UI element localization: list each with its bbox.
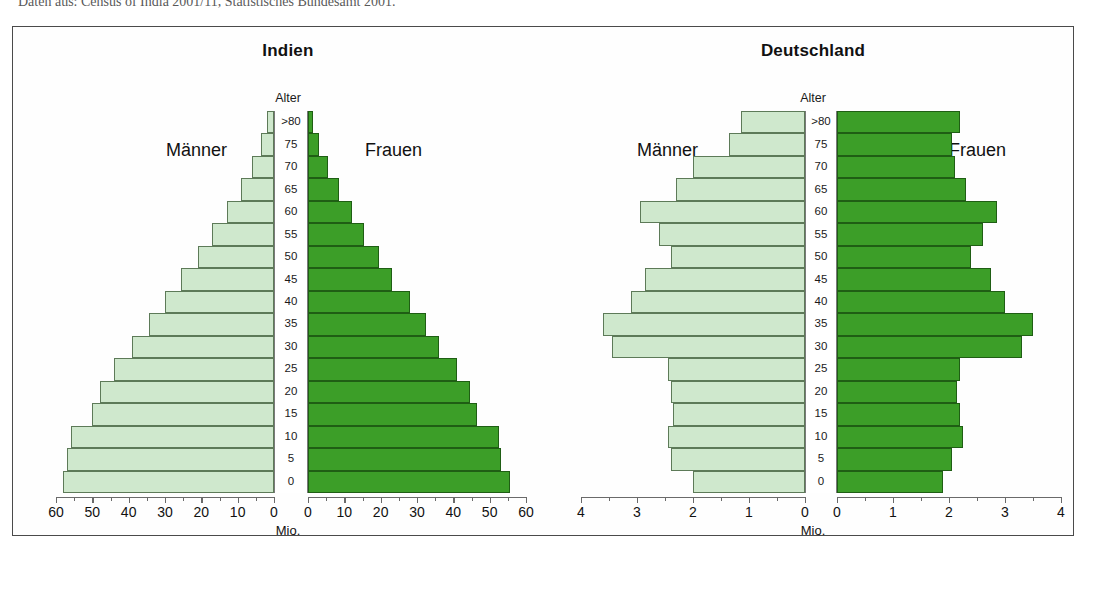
bar-male — [212, 223, 274, 245]
age-tick-label: 10 — [275, 431, 307, 443]
bar-female — [837, 448, 952, 470]
bar-female — [837, 111, 960, 133]
age-tick-label: 20 — [806, 386, 836, 398]
x-axis-tick — [92, 497, 93, 503]
bar-male — [267, 111, 274, 133]
x-axis-tick — [56, 497, 57, 503]
x-axis-tick-label: 2 — [689, 504, 697, 520]
x-axis-tick-label: 0 — [304, 504, 312, 520]
bar-male — [668, 358, 805, 380]
bar-female — [308, 133, 319, 155]
bar-male — [659, 223, 805, 245]
age-tick-label: 75 — [275, 139, 307, 151]
x-axis-tick-label: 40 — [121, 504, 137, 520]
x-axis-minor-tick — [865, 497, 866, 501]
page-title-indien: Indien — [13, 41, 563, 61]
x-axis-minor-tick — [363, 497, 364, 501]
bar-male — [729, 133, 805, 155]
x-axis-tick — [805, 497, 806, 503]
age-tick-label: 0 — [275, 476, 307, 488]
bar-female — [308, 156, 328, 178]
bar-female — [837, 426, 963, 448]
x-axis-tick — [526, 497, 527, 503]
bar-female — [308, 403, 477, 425]
x-axis-tick — [893, 497, 894, 503]
x-axis-tick — [417, 497, 418, 503]
bar-female — [308, 426, 499, 448]
bar-female — [308, 358, 457, 380]
age-tick-label: 30 — [806, 341, 836, 353]
plot-area-indien: 051015202530354045505560657075>800102030… — [13, 111, 563, 497]
bar-male — [671, 246, 805, 268]
x-axis-tick-label: 1 — [889, 504, 897, 520]
bar-female — [308, 201, 352, 223]
age-tick-label: 20 — [275, 386, 307, 398]
x-axis-tick — [129, 497, 130, 503]
x-axis-minor-tick — [220, 497, 221, 501]
age-tick-label: 45 — [806, 274, 836, 286]
bar-male — [100, 381, 274, 403]
age-tick-label: 50 — [806, 251, 836, 263]
x-axis-tick — [165, 497, 166, 503]
x-axis-tick — [344, 497, 345, 503]
bar-female — [837, 133, 952, 155]
bar-female — [308, 471, 510, 493]
x-axis-tick — [201, 497, 202, 503]
axis-unit-indien: Mio. — [13, 523, 563, 538]
age-axis-column: 051015202530354045505560657075>80 — [274, 111, 308, 493]
bar-female — [308, 448, 501, 470]
x-axis-tick — [381, 497, 382, 503]
x-axis-tick-label: 2 — [945, 504, 953, 520]
bar-female — [837, 291, 1005, 313]
age-tick-label: 55 — [806, 229, 836, 241]
x-axis-tick-label: 4 — [1057, 504, 1065, 520]
source-note: Daten aus: Census of India 2001/11, Stat… — [18, 0, 618, 8]
bar-male — [673, 403, 805, 425]
x-axis-tick-label: 3 — [633, 504, 641, 520]
bar-male — [165, 291, 274, 313]
age-tick-label: 30 — [275, 341, 307, 353]
bar-female — [308, 246, 379, 268]
x-axis-tick-label: 0 — [270, 504, 278, 520]
age-tick-label: 25 — [806, 363, 836, 375]
bar-male — [114, 358, 274, 380]
alter-label-deutschland: Alter — [553, 91, 1073, 105]
bar-male — [92, 403, 274, 425]
x-axis-tick-label: 0 — [801, 504, 809, 520]
age-tick-label: 35 — [806, 318, 836, 330]
bar-female — [308, 111, 313, 133]
x-axis-minor-tick — [183, 497, 184, 501]
x-axis-minor-tick — [472, 497, 473, 501]
bar-female — [837, 358, 960, 380]
bar-male — [198, 246, 274, 268]
x-axis-minor-tick — [977, 497, 978, 501]
bar-female — [308, 336, 439, 358]
bar-male — [693, 156, 805, 178]
age-tick-label: 45 — [275, 274, 307, 286]
x-axis-minor-tick — [435, 497, 436, 501]
x-axis-tick — [490, 497, 491, 503]
bar-female — [837, 178, 966, 200]
chart-frame: Indien Alter Männer Frauen 0510152025303… — [12, 26, 1074, 536]
bar-female — [837, 156, 955, 178]
bar-male — [63, 471, 274, 493]
bar-female — [837, 201, 997, 223]
x-axis-minor-tick — [921, 497, 922, 501]
x-axis-minor-tick — [665, 497, 666, 501]
x-axis-minor-tick — [508, 497, 509, 501]
bar-male — [181, 268, 274, 290]
age-tick-label: 75 — [806, 139, 836, 151]
bar-male — [676, 178, 805, 200]
bar-male — [71, 426, 274, 448]
x-axis-tick — [453, 497, 454, 503]
bar-female — [308, 291, 410, 313]
x-axis-minor-tick — [721, 497, 722, 501]
x-axis-minor-tick — [399, 497, 400, 501]
x-axis-tick-label: 60 — [518, 504, 534, 520]
x-axis-minor-tick — [74, 497, 75, 501]
x-axis-tick-label: 0 — [833, 504, 841, 520]
x-axis-tick — [308, 497, 309, 503]
x-axis-tick-label: 50 — [482, 504, 498, 520]
age-tick-label: 40 — [275, 296, 307, 308]
page-title-deutschland: Deutschland — [553, 41, 1073, 61]
